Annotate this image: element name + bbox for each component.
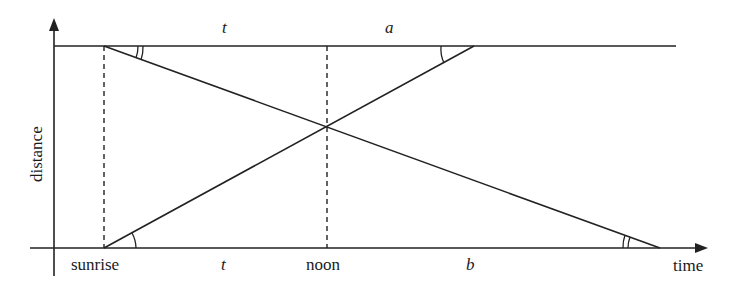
noon-label: noon bbox=[306, 255, 341, 274]
x-axis-arrow-icon bbox=[695, 243, 708, 253]
diagram-canvas: t a t b sunrise noon time distance bbox=[0, 0, 737, 289]
segment-label-top-right: a bbox=[385, 18, 394, 37]
y-axis-arrow-icon bbox=[49, 18, 59, 31]
traveler-b-line bbox=[104, 46, 474, 248]
segment-label-top-left: t bbox=[222, 18, 228, 37]
segment-label-bottom-left: t bbox=[221, 255, 227, 274]
y-axis-label: distance bbox=[27, 126, 46, 182]
x-axis-label: time bbox=[673, 256, 703, 275]
top-right-angle-mark bbox=[441, 46, 444, 63]
sunrise-label: sunrise bbox=[71, 255, 119, 274]
bottom-left-angle-mark bbox=[132, 233, 136, 248]
traveler-a-line bbox=[104, 46, 660, 248]
segment-label-bottom-right: b bbox=[466, 255, 475, 274]
